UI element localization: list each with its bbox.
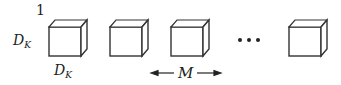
width-label-base: D	[54, 62, 65, 78]
index-label: 1	[36, 3, 45, 17]
cube-2	[110, 20, 148, 56]
spacing-arrow-right	[197, 71, 221, 76]
cube-diagram	[0, 0, 341, 85]
cube-3	[171, 20, 209, 56]
spacing-arrow-left	[151, 71, 174, 76]
cube-last	[289, 20, 327, 56]
height-label-base: D	[13, 32, 24, 48]
height-label-sub: K	[24, 40, 31, 50]
ellipsis-dots	[238, 38, 260, 42]
width-label-sub: K	[65, 70, 72, 80]
width-label: DK	[54, 63, 72, 77]
spacing-label: M	[178, 66, 193, 81]
height-label: DK	[13, 33, 31, 47]
cube-1	[49, 20, 87, 56]
